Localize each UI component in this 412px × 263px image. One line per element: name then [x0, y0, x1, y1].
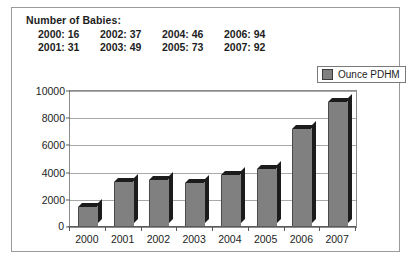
bar-slot	[142, 91, 178, 227]
x-axis: 0 20002001200220032004200520062007	[69, 226, 355, 256]
bar-slot	[177, 91, 213, 227]
caption-cell: 2000: 16	[38, 28, 100, 41]
bar-slot	[106, 91, 142, 227]
caption-title: Number of Babies:	[26, 14, 286, 26]
y-axis-tick-label: 6000	[42, 139, 65, 151]
caption-cell: 2003: 49	[100, 41, 162, 54]
x-tick-mark	[284, 227, 285, 231]
x-tick-mark	[141, 227, 142, 231]
x-axis-tick-label: 2007	[319, 233, 355, 245]
legend-label: Ounce PDHM	[338, 69, 400, 80]
x-axis-tick-label: 2001	[105, 233, 141, 245]
bar	[185, 183, 205, 227]
bar	[257, 169, 277, 227]
chart-panel: Number of Babies: 2000: 16 2002: 37 2004…	[11, 7, 400, 252]
caption-cell: 2004: 46	[162, 28, 224, 41]
bar-slot	[320, 91, 356, 227]
bar-slot	[249, 91, 285, 227]
caption-row: 2001: 31 2003: 49 2005: 73 2007: 92	[38, 41, 286, 54]
x-tick-mark	[212, 227, 213, 231]
y-axis-tick-label: 2000	[42, 194, 65, 206]
x-tick-mark	[69, 227, 70, 231]
bar	[221, 175, 241, 227]
chart-screenshot: Number of Babies: 2000: 16 2002: 37 2004…	[0, 0, 412, 263]
bar-series	[70, 91, 356, 227]
caption-rows: 2000: 16 2002: 37 2004: 46 2006: 94 2001…	[38, 28, 286, 54]
x-tick-mark	[248, 227, 249, 231]
bar	[292, 129, 312, 227]
x-axis-labels: 20002001200220032004200520062007	[69, 233, 355, 245]
caption-row: 2000: 16 2002: 37 2004: 46 2006: 94	[38, 28, 286, 41]
x-axis-tick-label: 2004	[212, 233, 248, 245]
x-tick-mark	[176, 227, 177, 231]
x-axis-tick-label: 2002	[141, 233, 177, 245]
bar-slot	[213, 91, 249, 227]
bar-slot	[70, 91, 106, 227]
y-axis-tick-label: 8000	[42, 112, 65, 124]
x-axis-tick-label: 2005	[248, 233, 284, 245]
x-tick-mark	[105, 227, 106, 231]
chart-legend: Ounce PDHM	[317, 66, 406, 83]
caption-cell: 2002: 37	[100, 28, 162, 41]
y-axis-tick-label: 10000	[36, 85, 65, 97]
bar	[114, 182, 134, 227]
y-axis-tick-label: 4000	[42, 167, 65, 179]
bar	[149, 180, 169, 227]
bar	[328, 102, 348, 227]
caption-cell: 2007: 92	[224, 41, 286, 54]
caption-cell: 2005: 73	[162, 41, 224, 54]
plot-area: 200040006000800010000	[69, 90, 357, 228]
bar-slot	[285, 91, 321, 227]
caption-cell: 2006: 94	[224, 28, 286, 41]
x-axis-tick-label: 2006	[284, 233, 320, 245]
caption-block: Number of Babies: 2000: 16 2002: 37 2004…	[26, 14, 286, 54]
x-tick-mark	[319, 227, 320, 231]
caption-cell: 2001: 31	[38, 41, 100, 54]
x-axis-tick-label: 2003	[176, 233, 212, 245]
bar	[78, 207, 98, 227]
y-axis-zero-label: 0	[58, 220, 64, 232]
legend-swatch-icon	[322, 69, 333, 80]
x-tick-mark	[355, 227, 356, 231]
x-axis-tick-label: 2000	[69, 233, 105, 245]
